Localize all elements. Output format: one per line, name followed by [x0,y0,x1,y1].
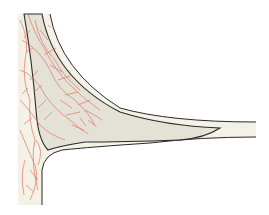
anatomical-illustration [0,0,269,215]
